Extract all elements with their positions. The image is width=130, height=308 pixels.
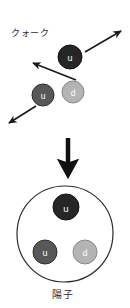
quark-label: クォーク <box>11 26 49 39</box>
proton-quark-u-left: u <box>33 240 57 264</box>
proton-quark-u-top: u <box>53 194 79 220</box>
free-quark-u-left: u <box>32 84 54 106</box>
proton-group: u u d <box>17 186 113 282</box>
motion-arrow-group <box>9 31 121 123</box>
proton-label: 陽子 <box>52 286 73 301</box>
free-quark-u-left-label: u <box>41 91 46 101</box>
arrow-up-right-icon <box>85 31 121 52</box>
free-quark-u-top: u <box>58 45 82 69</box>
diagram-canvas: u u d u u d <box>0 0 130 308</box>
free-quark-d-right-label: d <box>71 88 76 98</box>
proton-quark-u-left-label: u <box>42 248 47 258</box>
free-quark-u-top-label: u <box>67 53 72 63</box>
arrow-down-left-icon <box>9 106 36 123</box>
proton-quark-d-right: d <box>73 240 97 264</box>
proton-quark-u-top-label: u <box>63 203 68 214</box>
proton-quark-d-right-label: d <box>82 248 87 258</box>
quark-proton-diagram: クォーク 陽子 u u d <box>0 0 130 308</box>
free-quark-d-right: d <box>62 81 84 103</box>
